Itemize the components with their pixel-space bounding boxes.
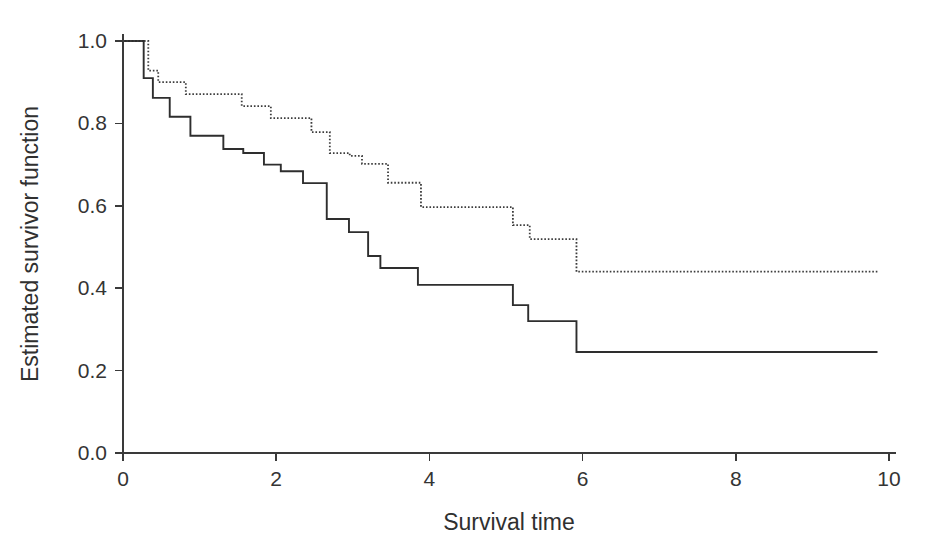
x-tick-label: 6 [577,467,589,490]
y-axis-title: Estimated survivor function [17,106,43,382]
x-tick-label: 8 [730,467,742,490]
plot-canvas: 0.00.20.40.60.81.0 0246810 Survival time… [0,0,943,553]
survival-plot-figure: 0.00.20.40.60.81.0 0246810 Survival time… [0,0,943,553]
y-tick-label: 0.4 [78,276,108,299]
survival-curve-solid [123,41,878,352]
x-tick-label: 2 [270,467,282,490]
y-tick-group: 0.00.20.40.60.81.0 [78,29,123,464]
x-tick-label: 10 [877,467,900,490]
series-group [123,41,878,352]
x-tick-group: 0246810 [117,453,901,490]
x-axis-title: Survival time [443,509,575,535]
axes-group [123,34,896,453]
y-tick-label: 0.0 [78,441,107,464]
y-tick-label: 0.8 [78,111,107,134]
y-tick-label: 0.6 [78,194,107,217]
survival-curve-dotted [123,41,878,272]
y-tick-label: 0.2 [78,359,107,382]
x-tick-label: 0 [117,467,129,490]
x-tick-label: 4 [424,467,436,490]
y-tick-label: 1.0 [78,29,107,52]
